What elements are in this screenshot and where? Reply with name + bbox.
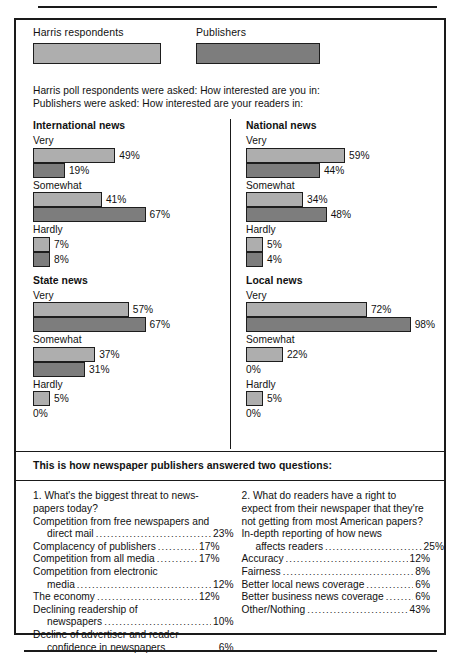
answer-label: Better business news coverage [242,591,384,604]
answer-item: confidence in newspapers................… [33,642,220,655]
answer-line: Accuracy................................… [242,553,431,566]
bar-harris-respondents [246,192,303,207]
bar-harris-respondents [33,347,95,362]
question-prompt-line: 1. What's the biggest threat to news- [33,490,220,503]
leader-dots: ........................................… [97,591,197,604]
leader-dots: ........................................… [325,541,422,554]
leader-dots: ........................................… [167,642,216,655]
bar-group-label: Somewhat [246,333,438,347]
answer-item: media...................................… [33,579,220,592]
bar-publishers [33,163,65,178]
answer-line: Fairness................................… [242,566,431,579]
bar-value-label: 67% [150,318,170,331]
bar-value-label: 5% [267,392,282,405]
bar-group-label: Hardly [246,223,438,237]
answer-percent: 12% [410,553,430,566]
answer-line: Complacency of publishers...............… [33,541,220,554]
bar-value-label: 37% [99,348,119,361]
leader-dots: ........................................… [307,604,407,617]
bar-value-label: 48% [331,208,351,221]
answer-line: newspapers..............................… [33,616,234,629]
bar-group: Hardly5%4% [246,223,438,267]
bar-publishers [246,207,327,222]
bar-value-label: 0% [33,407,48,420]
answer-percent: 6% [415,591,430,604]
bar-value-label: 34% [307,193,327,206]
chart-column-right: National newsVery59%44%Somewhat34%48%Har… [230,119,444,449]
bar-group-label: Hardly [246,378,438,392]
answer-label: confidence in newspapers [47,642,165,655]
question-prompt-line: 2. What do readers have a right to [242,490,431,503]
top-divider-rule [38,6,437,8]
bar-row: 57% [33,302,222,317]
answer-label-line: Competition from free newspapers and [33,516,220,529]
answer-item: Complacency of publishers...............… [33,541,220,554]
footer-band: This is how newspaper publishers answere… [16,451,444,481]
bar-value-label: 59% [349,149,369,162]
leader-dots: ........................................… [286,553,408,566]
answer-label: newspapers [47,616,102,629]
panel-title: International news [33,119,222,133]
bar-group: Somewhat34%48% [246,179,438,223]
answer-line: confidence in newspapers................… [33,642,234,655]
intro-text: Harris poll respondents were asked: How … [16,84,444,110]
answer-percent: 43% [410,604,430,617]
bar-row: 41% [33,192,222,207]
bar-row: 4% [246,252,438,267]
bar-group-label: Hardly [33,223,222,237]
bar-group: Very72%98% [246,289,438,333]
answer-percent: 6% [415,579,430,592]
bar-harris-respondents [33,302,129,317]
bar-row: 31% [33,362,222,377]
legend-label-publishers: Publishers [196,26,320,39]
bar-group-label: Very [33,289,222,303]
bar-group: Hardly5%0% [246,378,438,422]
bar-value-label: 31% [89,363,109,376]
answer-item: Accuracy................................… [242,553,431,566]
bar-group-label: Very [246,289,438,303]
question-prompt-line: expect from their newspaper that they're [242,503,431,516]
answer-line: Competition from all media..............… [33,553,220,566]
question-prompt-line: papers today? [33,503,220,516]
bar-row: 44% [246,163,438,178]
leader-dots: ........................................… [157,553,197,566]
answer-line: direct mail.............................… [33,528,234,541]
answer-label: Fairness [242,566,281,579]
bar-row: 72% [246,302,438,317]
footer-band-title: This is how newspaper publishers answere… [33,459,427,473]
bar-publishers [33,362,85,377]
bar-harris-respondents [246,391,263,406]
panel-local-news: Local newsVery72%98%Somewhat22%0%Hardly5… [246,274,438,422]
chart-frame: Harris respondents Publishers Harris pol… [14,18,446,635]
leader-dots: ........................................… [366,579,413,592]
bar-harris-respondents [246,148,345,163]
bar-value-label: 7% [54,238,69,251]
answer-line: Better business news coverage...........… [242,591,431,604]
bar-group-label: Very [33,134,222,148]
bar-group: Hardly5%0% [33,378,222,422]
bar-publishers [246,252,263,267]
answer-percent: 23% [213,528,233,541]
bar-value-label: 0% [246,363,261,376]
bar-group: Somewhat37%31% [33,333,222,377]
bar-publishers [246,163,320,178]
answer-label: affects readers [256,541,324,554]
bar-group-label: Hardly [33,378,222,392]
bar-row: 67% [33,317,222,332]
legend-swatch-publishers [196,43,320,64]
infographic-page: Harris respondents Publishers Harris pol… [0,0,461,664]
leader-dots: ........................................… [104,616,211,629]
answer-label: The economy [33,591,95,604]
answer-line: affects readers.........................… [242,541,445,554]
bar-row: 8% [33,252,222,267]
bar-harris-respondents [246,237,263,252]
answer-item: The economy.............................… [33,591,220,604]
answer-percent: 8% [415,566,430,579]
answer-label: Accuracy [242,553,284,566]
answer-percent: 6% [219,642,234,655]
answer-percent: 25% [424,541,444,554]
leader-dots: ........................................… [96,528,211,541]
legend-item-harris: Harris respondents [33,26,161,64]
answer-item: newspapers..............................… [33,616,220,629]
answer-label: media [47,579,75,592]
